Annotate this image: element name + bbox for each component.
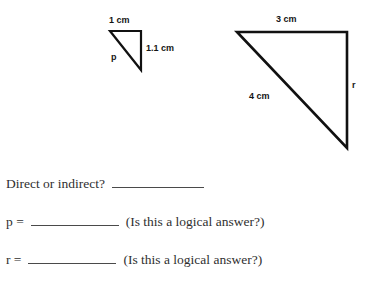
variable-label-r: r =: [6, 253, 21, 267]
large-triangle-shape: [237, 32, 347, 148]
worksheet-page: 1 cm 1.1 cm p 3 cm 4 cm r Direct or indi…: [0, 0, 370, 292]
answer-blank-p[interactable]: [31, 214, 119, 226]
question-row-r: r = (Is this a logical answer?): [6, 252, 262, 267]
small-triangle-shape: [110, 31, 141, 70]
figures-area: 1 cm 1.1 cm p 3 cm 4 cm r: [0, 0, 370, 162]
variable-label-p: p =: [6, 215, 24, 229]
large-triangle-top-label: 3 cm: [276, 15, 297, 24]
small-triangle-top-label: 1 cm: [109, 16, 130, 25]
question-row-p: p = (Is this a logical answer?): [6, 214, 264, 229]
logical-answer-note-p: (Is this a logical answer?): [126, 215, 265, 229]
small-triangle-right-label: 1.1 cm: [146, 44, 174, 53]
large-triangle-right-label: r: [352, 81, 356, 90]
answer-blank-direct-indirect[interactable]: [112, 176, 204, 188]
question-prompt: Direct or indirect?: [6, 177, 105, 191]
large-triangle-hypotenuse-label: 4 cm: [249, 92, 270, 101]
logical-answer-note-r: (Is this a logical answer?): [123, 253, 262, 267]
question-row-direct-indirect: Direct or indirect?: [6, 176, 211, 191]
questions-area: Direct or indirect? p = (Is this a logic…: [0, 162, 370, 292]
answer-blank-r[interactable]: [28, 252, 116, 264]
triangles-diagram: [0, 0, 370, 162]
small-triangle-hypotenuse-label: p: [111, 53, 117, 62]
